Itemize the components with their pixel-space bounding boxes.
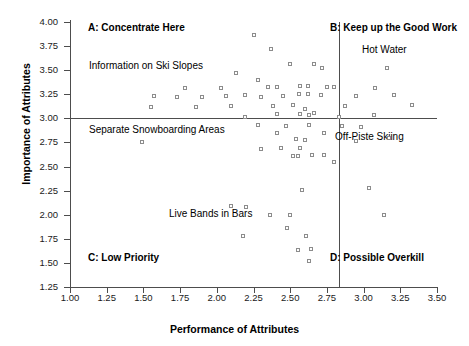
data-point: [325, 85, 329, 89]
data-point: [307, 259, 311, 263]
data-point: [337, 115, 341, 119]
x-tick-label: 3.25: [380, 293, 420, 303]
data-point: [322, 131, 326, 135]
data-point: [354, 94, 358, 98]
y-tick-mark: [64, 22, 70, 23]
x-tick-label: 1.25: [87, 293, 127, 303]
x-tick-label: 2.25: [234, 293, 274, 303]
data-point: [300, 188, 304, 192]
data-point: [152, 94, 156, 98]
y-tick-mark: [64, 215, 70, 216]
data-point: [296, 248, 300, 252]
data-point: [194, 105, 198, 109]
data-point: [252, 33, 256, 37]
quadrant-divider-horizontal: [70, 118, 437, 119]
quadrant-label-d: D: Possible Overkill: [330, 252, 424, 263]
y-axis-line: [70, 20, 71, 289]
data-point: [243, 93, 247, 97]
data-point: [298, 146, 302, 150]
data-point: [269, 47, 273, 51]
data-point: [288, 213, 292, 217]
data-point: [281, 94, 285, 98]
data-point: [304, 234, 308, 238]
data-point: [241, 234, 245, 238]
quadrant-label-a: A: Concentrate Here: [88, 22, 185, 33]
annotation-hot-water: Hot Water: [362, 44, 407, 55]
data-point: [279, 146, 283, 150]
data-point: [322, 153, 326, 157]
data-point: [243, 115, 247, 119]
y-tick-mark: [64, 46, 70, 47]
x-tick-label: 2.00: [197, 293, 237, 303]
y-tick-mark: [64, 94, 70, 95]
annotation-live-bands-in-bars: Live Bands in Bars: [169, 208, 252, 219]
x-tick-label: 1.50: [123, 293, 163, 303]
data-point: [343, 104, 347, 108]
data-point: [385, 66, 389, 70]
annotation-separate-snowboarding-areas: Separate Snowboarding Areas: [89, 124, 225, 135]
y-tick-label: 1.50: [24, 258, 58, 268]
data-point: [266, 85, 270, 89]
data-point: [256, 123, 260, 127]
data-point: [306, 92, 310, 96]
data-point: [183, 86, 187, 90]
quadrant-label-b: B: Keep up the Good Work: [330, 22, 457, 33]
data-point: [271, 104, 275, 108]
x-tick-label: 1.75: [160, 293, 200, 303]
data-point: [320, 66, 324, 70]
data-point: [140, 140, 144, 144]
data-point: [307, 123, 311, 127]
data-point: [332, 160, 336, 164]
y-tick-mark: [64, 263, 70, 264]
data-point: [256, 78, 260, 82]
annotation-off-piste-skiing: Off-Piste Skiing: [335, 131, 404, 142]
data-point: [392, 93, 396, 97]
x-tick-label: 3.50: [417, 293, 457, 303]
data-point: [340, 124, 344, 128]
data-point: [259, 147, 263, 151]
data-point: [229, 104, 233, 108]
data-point: [312, 111, 316, 115]
data-point: [224, 94, 228, 98]
data-point: [219, 86, 223, 90]
data-point: [410, 103, 414, 107]
y-tick-mark: [64, 167, 70, 168]
y-tick-mark: [64, 142, 70, 143]
y-tick-label: 1.75: [24, 234, 58, 244]
x-tick-label: 1.00: [50, 293, 90, 303]
data-point: [303, 107, 307, 111]
data-point: [229, 204, 233, 208]
data-point: [296, 154, 300, 158]
data-point: [372, 113, 376, 117]
data-point: [285, 226, 289, 230]
data-point: [312, 62, 316, 66]
x-tick-label: 2.50: [270, 293, 310, 303]
data-point: [297, 92, 301, 96]
data-point: [288, 62, 292, 66]
data-point: [332, 85, 336, 89]
x-tick-label: 3.00: [344, 293, 384, 303]
y-tick-label: 1.25: [24, 282, 58, 292]
chart-container: 1.251.501.752.002.252.502.753.003.253.50…: [0, 0, 469, 346]
bottom-caption: [0, 340, 469, 346]
data-point: [259, 95, 263, 99]
y-tick-mark: [64, 191, 70, 192]
data-point: [275, 112, 279, 116]
data-point: [291, 154, 295, 158]
data-point: [309, 247, 313, 251]
y-tick-mark: [64, 118, 70, 119]
data-point: [359, 125, 363, 129]
data-point: [200, 95, 204, 99]
data-point: [175, 95, 179, 99]
data-point: [354, 139, 358, 143]
data-point: [268, 213, 272, 217]
quadrant-label-c: C: Low Priority: [88, 252, 159, 263]
data-point: [319, 93, 323, 97]
y-tick-mark: [64, 239, 70, 240]
data-point: [234, 71, 238, 75]
data-point: [291, 103, 295, 107]
y-tick-mark: [64, 70, 70, 71]
data-point: [298, 84, 302, 88]
x-axis-title: Performance of Attributes: [0, 323, 469, 335]
data-point: [149, 105, 153, 109]
